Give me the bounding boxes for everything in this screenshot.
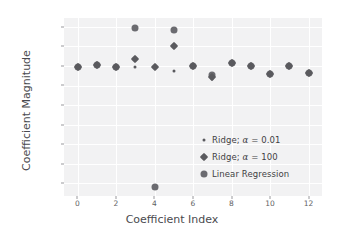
data-point [153, 66, 156, 69]
y-tick-mark [61, 65, 64, 66]
data-point [307, 71, 310, 74]
data-point [170, 26, 177, 33]
data-point [76, 66, 79, 69]
legend-marker-icon [196, 132, 212, 148]
data-point [192, 65, 195, 68]
data-point [95, 64, 98, 67]
data-point [132, 25, 139, 32]
legend-item: Ridge; α = 0.01 [196, 131, 289, 148]
data-point [172, 70, 175, 73]
data-point [115, 65, 118, 68]
gridline-vertical [78, 18, 79, 196]
y-tick-mark [61, 26, 64, 27]
data-point [288, 64, 291, 67]
legend-label: Linear Regression [212, 169, 289, 179]
x-tick-mark [77, 196, 78, 199]
y-tick-mark [61, 144, 64, 145]
legend-item: Ridge; α = 100 [196, 148, 289, 165]
x-tick-mark [308, 196, 309, 199]
figure: 420−2−4−6−8−10−12 024681012 Coefficient … [0, 0, 344, 237]
legend-marker-icon [196, 149, 212, 165]
x-tick-mark [231, 196, 232, 199]
y-tick-mark [61, 163, 64, 164]
legend-label: Ridge; α = 100 [212, 152, 278, 162]
x-tick-mark [115, 196, 116, 199]
data-point [211, 77, 214, 80]
x-tick-label: 4 [141, 199, 167, 208]
legend-label: Ridge; α = 0.01 [212, 135, 281, 145]
data-point [134, 66, 137, 69]
legend-marker-glyph [201, 170, 208, 177]
y-tick-mark [61, 124, 64, 125]
x-tick-label: 12 [296, 199, 322, 208]
x-tick-mark [193, 196, 194, 199]
x-tick-mark [270, 196, 271, 199]
legend-marker-glyph [200, 152, 208, 160]
y-tick-mark [61, 85, 64, 86]
gridline-vertical [116, 18, 117, 196]
legend-item: Linear Regression [196, 165, 289, 182]
x-tick-mark [154, 196, 155, 199]
y-tick-mark [61, 183, 64, 184]
data-point [151, 184, 158, 191]
x-tick-label: 8 [219, 199, 245, 208]
y-axis-label: Coefficient Magnitude [20, 11, 33, 211]
x-tick-label: 2 [103, 199, 129, 208]
gridline-vertical [193, 18, 194, 196]
gridline-vertical [155, 18, 156, 196]
data-point [169, 42, 177, 50]
data-point [249, 65, 252, 68]
chart-legend: Ridge; α = 0.01Ridge; α = 100Linear Regr… [196, 131, 289, 182]
x-axis-label: Coefficient Index [0, 213, 344, 226]
x-tick-label: 6 [180, 199, 206, 208]
gridline-vertical [309, 18, 310, 196]
y-tick-mark [61, 46, 64, 47]
data-point [131, 55, 139, 63]
legend-marker-icon [196, 166, 212, 182]
x-tick-label: 0 [64, 199, 90, 208]
y-tick-mark [61, 105, 64, 106]
data-point [269, 72, 272, 75]
data-point [230, 62, 233, 65]
x-tick-label: 10 [257, 199, 283, 208]
legend-marker-glyph [203, 138, 206, 141]
